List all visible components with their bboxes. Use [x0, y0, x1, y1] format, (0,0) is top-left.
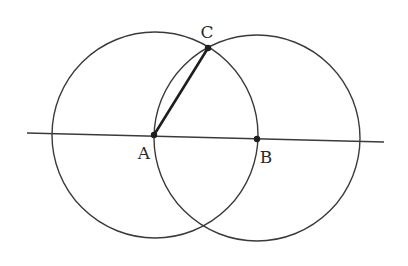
- line-through-A-B: [27, 133, 384, 142]
- label-A: A: [138, 145, 150, 162]
- label-B: B: [260, 149, 273, 166]
- point-B: [254, 136, 260, 142]
- point-A: [151, 132, 157, 138]
- point-C: [205, 45, 211, 51]
- segment-AC: [154, 48, 208, 135]
- label-C: C: [200, 24, 213, 41]
